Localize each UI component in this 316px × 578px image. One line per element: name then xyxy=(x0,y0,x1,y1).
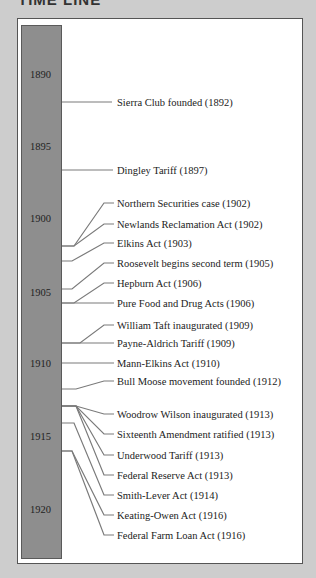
timeline-event: Federal Farm Loan Act (1916) xyxy=(117,529,245,542)
timeline-event: Payne-Aldrich Tariff (1909) xyxy=(117,337,235,350)
timeline-event: Federal Reserve Act (1913) xyxy=(117,469,233,482)
timeline-event: Dingley Tariff (1897) xyxy=(117,164,207,177)
timeline-event: Sierra Club founded (1892) xyxy=(117,96,233,109)
timeline-event: Newlands Reclamation Act (1902) xyxy=(117,218,263,231)
timeline-event: Northern Securities case (1902) xyxy=(117,197,250,210)
timeline-event: Mann-Elkins Act (1910) xyxy=(117,357,220,370)
timeline-event: Pure Food and Drug Acts (1906) xyxy=(117,297,254,310)
timeline-event: Bull Moose movement founded (1912) xyxy=(117,375,297,388)
timeline-event: Sixteenth Amendment ratified (1913) xyxy=(117,428,274,441)
timeline-event: Elkins Act (1903) xyxy=(117,237,192,250)
timeline-event: Keating-Owen Act (1916) xyxy=(117,509,227,522)
timeline-event: Hepburn Act (1906) xyxy=(117,277,202,290)
timeline-event: William Taft inaugurated (1909) xyxy=(117,319,253,332)
timeline-event: Underwood Tariff (1913) xyxy=(117,449,223,462)
timeline-event: Woodrow Wilson inaugurated (1913) xyxy=(117,408,273,421)
timeline-event: Smith-Lever Act (1914) xyxy=(117,489,218,502)
timeline-event: Roosevelt begins second term (1905) xyxy=(117,257,273,270)
